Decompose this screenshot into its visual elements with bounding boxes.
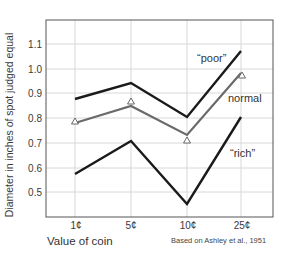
triangle-marker-icon (184, 137, 191, 143)
x-tick: 1¢ (70, 220, 81, 231)
y-tick: 0.5 (28, 187, 42, 198)
y-tick: 1.0 (28, 64, 42, 75)
y-tick: 0.9 (28, 88, 42, 99)
y-axis-title: Diameter in inches of spot judged equal (3, 33, 15, 217)
y-tick: 1.1 (28, 39, 42, 50)
series-label-normal: normal (228, 92, 262, 104)
series-label-rich: “rich” (230, 147, 255, 159)
x-tick: 25¢ (234, 220, 251, 231)
triangle-marker-icon (128, 98, 135, 104)
series-label-poor: “poor” (197, 52, 227, 64)
source-note: Based on Ashley et al., 1951 (171, 236, 266, 245)
y-axis-ticks: 1.1 1.0 0.9 0.8 0.7 0.6 0.5 (28, 39, 42, 198)
y-tick: 0.7 (28, 138, 42, 149)
y-tick: 0.6 (28, 163, 42, 174)
series-rich-line (75, 117, 241, 204)
chart: 1.1 1.0 0.9 0.8 0.7 0.6 0.5 1¢ 5¢ 10¢ 25… (0, 0, 291, 255)
y-tick: 0.8 (28, 113, 42, 124)
x-tick: 5¢ (125, 220, 136, 231)
triangle-marker-icon (72, 118, 79, 124)
series-normal-markers (72, 72, 246, 143)
x-axis-title: Value of coin (47, 235, 113, 247)
x-tick: 10¢ (180, 220, 197, 231)
x-axis-ticks: 1¢ 5¢ 10¢ 25¢ (70, 220, 250, 231)
